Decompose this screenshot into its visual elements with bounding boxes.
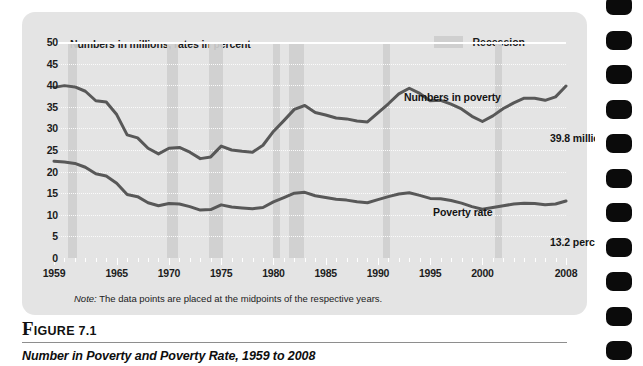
x-axis-line (54, 42, 566, 44)
y-axis-label: 15 (36, 187, 58, 199)
footnote-lead: Note: (74, 293, 97, 304)
y-axis-label: 20 (36, 166, 58, 178)
x-axis-tick (357, 258, 358, 262)
x-axis-tick (96, 258, 97, 262)
binding-hole (606, 307, 632, 326)
x-axis-label: 1959 (43, 267, 66, 279)
series-line (54, 161, 566, 210)
x-axis-tick (200, 258, 201, 262)
y-axis-label: 45 (36, 58, 58, 70)
x-axis-label: 2008 (555, 267, 578, 279)
x-axis-tick (336, 258, 337, 262)
binding-hole (606, 203, 632, 222)
x-axis-tick (482, 258, 483, 265)
footnote: Note: The data points are placed at the … (74, 293, 382, 304)
x-axis-label: 1985 (314, 267, 337, 279)
x-axis-tick (284, 258, 285, 262)
x-axis-tick (138, 258, 139, 262)
x-axis-tick (545, 258, 546, 262)
x-axis-tick (242, 258, 243, 262)
x-axis-tick (190, 258, 191, 262)
binding-hole (606, 341, 632, 360)
y-axis-label: 0 (36, 252, 58, 264)
x-axis-label: 1990 (367, 267, 390, 279)
figure-number-rest: IGURE 7.1 (34, 324, 97, 338)
x-axis-tick (367, 258, 368, 262)
figure-title: Number in Poverty and Poverty Rate, 1959… (22, 349, 567, 363)
x-axis-tick (566, 258, 567, 265)
x-axis-label: 2000 (471, 267, 494, 279)
binding-hole (606, 134, 632, 153)
x-axis-tick (409, 258, 410, 262)
x-axis-tick (232, 258, 233, 262)
binding-hole (606, 31, 632, 50)
x-axis-tick (493, 258, 494, 262)
y-axis-label: 40 (36, 79, 58, 91)
x-axis-tick (326, 258, 327, 265)
figure-card: Numbers in millions, rates in percent Re… (22, 12, 587, 315)
series-lines (54, 42, 566, 258)
figure-caption-block: FIGURE 7.1 Number in Poverty and Poverty… (22, 322, 567, 363)
axes (54, 42, 566, 258)
x-axis-tick (106, 258, 107, 262)
spiral-binding (595, 0, 643, 366)
binding-hole (606, 169, 632, 188)
x-axis-tick (169, 258, 170, 265)
x-axis-tick (179, 258, 180, 262)
caption-divider (22, 342, 567, 343)
binding-hole (606, 100, 632, 119)
x-axis-tick (441, 258, 442, 262)
y-axis-label: 35 (36, 101, 58, 113)
binding-hole (606, 238, 632, 257)
x-axis-tick (221, 258, 222, 265)
figure-number-initial: F (22, 322, 34, 336)
x-axis-tick (514, 258, 515, 262)
x-axis-tick (315, 258, 316, 262)
x-axis-tick (462, 258, 463, 262)
chart-svg (54, 42, 566, 258)
x-axis-tick (253, 258, 254, 262)
y-axis-label: 25 (36, 144, 58, 156)
x-axis-label: 1980 (262, 267, 285, 279)
x-axis-label: 1975 (210, 267, 233, 279)
x-axis-tick (211, 258, 212, 262)
y-axis-label: 30 (36, 122, 58, 134)
x-axis-tick (503, 258, 504, 262)
x-axis-tick (524, 258, 525, 262)
x-axis-tick (347, 258, 348, 262)
x-axis-tick (420, 258, 421, 262)
x-axis-label: 1970 (158, 267, 181, 279)
binding-hole (606, 272, 632, 291)
x-axis-tick (378, 258, 379, 265)
figure-number-line: FIGURE 7.1 (22, 322, 567, 338)
footnote-text: The data points are placed at the midpoi… (97, 293, 383, 304)
x-axis-tick (75, 258, 76, 262)
x-axis-tick (117, 258, 118, 265)
y-axis-label: 10 (36, 209, 58, 221)
annotation-poverty-rate: Poverty rate (433, 206, 493, 218)
x-axis-tick (535, 258, 536, 262)
x-axis-tick (158, 258, 159, 262)
x-axis-label: 1995 (419, 267, 442, 279)
x-axis-tick (451, 258, 452, 262)
y-axis-label: 5 (36, 230, 58, 242)
x-axis-tick (127, 258, 128, 262)
annotation-numbers-in-poverty: Numbers in poverty (404, 91, 501, 103)
x-axis-tick (399, 258, 400, 262)
x-axis-tick (148, 258, 149, 262)
x-axis-label: 1965 (105, 267, 128, 279)
x-axis-tick (294, 258, 295, 262)
x-axis-tick (388, 258, 389, 262)
x-axis-tick (430, 258, 431, 265)
binding-hole (606, 65, 632, 84)
x-axis-tick (85, 258, 86, 262)
plot-area: 05101520253035404550 1959196519701975198… (36, 34, 576, 286)
x-axis-tick (273, 258, 274, 265)
x-axis-tick (305, 258, 306, 262)
binding-hole (606, 0, 632, 15)
y-axis-label: 50 (36, 36, 58, 48)
x-axis-tick (472, 258, 473, 262)
x-axis-tick (64, 258, 65, 262)
x-axis-tick (263, 258, 264, 262)
x-axis-tick (556, 258, 557, 262)
